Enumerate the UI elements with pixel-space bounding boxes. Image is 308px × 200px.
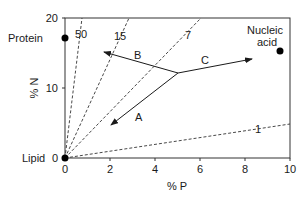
- chart: 20 10 0 0 2 4 6 8 10 % P % N Protein Nuc…: [0, 0, 308, 200]
- label-protein: Protein: [8, 32, 43, 44]
- point-nucleic-acid: [277, 48, 284, 55]
- arrows: [104, 52, 252, 125]
- y-tick-0: 0: [52, 152, 58, 164]
- point-protein: [62, 35, 69, 42]
- x-tick-10: 10: [284, 163, 296, 175]
- label-nucleic: Nucleic: [247, 24, 284, 36]
- y-tick-10: 10: [46, 82, 58, 94]
- label-ratio-7: 7: [185, 29, 191, 41]
- x-tick-2: 2: [107, 163, 113, 175]
- arrow-c: [178, 59, 252, 73]
- x-tick-6: 6: [197, 163, 203, 175]
- y-axis-title: % N: [28, 78, 40, 99]
- point-lipid: [62, 155, 69, 162]
- arrow-a: [111, 73, 178, 125]
- label-ratio-15: 15: [114, 30, 126, 42]
- label-ratio-50: 50: [75, 28, 87, 40]
- x-tick-8: 8: [242, 163, 248, 175]
- label-arrow-a: A: [135, 111, 143, 123]
- y-tick-20: 20: [46, 12, 58, 24]
- label-arrow-b: B: [134, 49, 141, 61]
- x-tick-4: 4: [152, 163, 158, 175]
- label-acid: acid: [257, 36, 277, 48]
- label-ratio-1: 1: [255, 123, 261, 135]
- label-lipid: Lipid: [22, 152, 45, 164]
- label-arrow-c: C: [201, 54, 209, 66]
- x-tick-0: 0: [62, 163, 68, 175]
- x-axis-title: % P: [167, 180, 187, 192]
